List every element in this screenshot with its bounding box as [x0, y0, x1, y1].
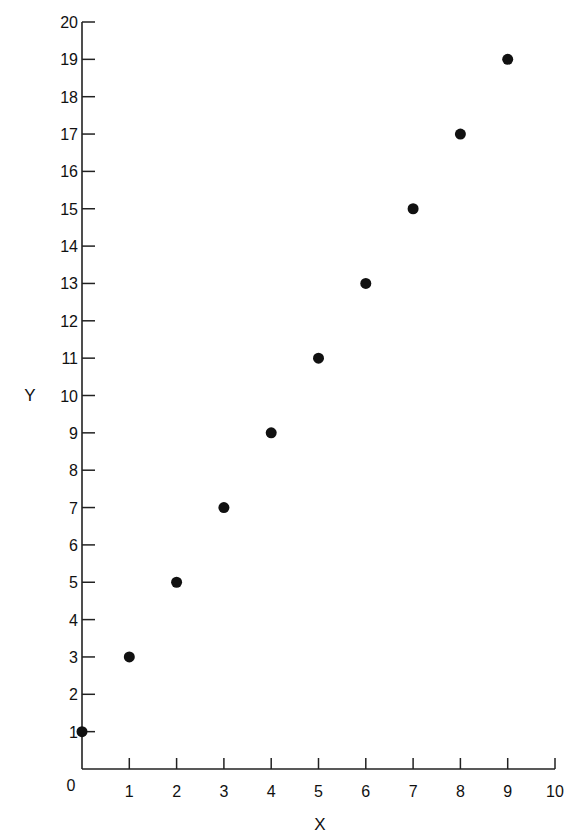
x-tick-label: 4	[267, 783, 276, 800]
y-tick-label: 14	[60, 238, 78, 255]
origin-label: 0	[67, 777, 76, 794]
y-tick-label: 10	[60, 388, 78, 405]
y-tick-label: 12	[60, 313, 78, 330]
data-point	[218, 502, 229, 513]
y-tick-label: 15	[60, 201, 78, 218]
x-tick-label: 6	[361, 783, 370, 800]
y-tick-label: 18	[60, 89, 78, 106]
axes	[82, 22, 555, 769]
x-tick-label: 1	[125, 783, 134, 800]
data-point	[124, 651, 135, 662]
y-tick-label: 13	[60, 275, 78, 292]
data-point	[360, 278, 371, 289]
y-tick-label: 3	[69, 649, 78, 666]
y-tick-label: 6	[69, 537, 78, 554]
y-tick-label: 2	[69, 686, 78, 703]
y-tick-label: 8	[69, 462, 78, 479]
data-point	[313, 353, 324, 364]
x-tick-label: 10	[546, 783, 564, 800]
x-tick-label: 5	[314, 783, 323, 800]
x-tick-label: 9	[503, 783, 512, 800]
data-point	[408, 203, 419, 214]
y-tick-label: 7	[69, 500, 78, 517]
y-tick-label: 11	[61, 350, 78, 367]
x-tick-label: 7	[409, 783, 418, 800]
data-point	[171, 577, 182, 588]
data-point	[77, 726, 88, 737]
x-axis-ticks: 12345678910	[125, 758, 564, 800]
y-tick-label: 5	[69, 574, 78, 591]
data-points	[77, 54, 514, 737]
y-tick-label: 20	[60, 14, 78, 31]
y-tick-label: 4	[69, 612, 78, 629]
y-tick-label: 17	[60, 126, 78, 143]
x-tick-label: 3	[219, 783, 228, 800]
y-tick-label: 16	[60, 163, 78, 180]
data-point	[455, 129, 466, 140]
x-tick-label: 2	[172, 783, 181, 800]
scatter-chart: 1234567891011121314151617181920 12345678…	[0, 0, 580, 836]
y-axis-title: Y	[24, 386, 35, 405]
data-point	[266, 427, 277, 438]
x-tick-label: 8	[456, 783, 465, 800]
y-tick-label: 9	[69, 425, 78, 442]
x-axis-title: X	[314, 815, 325, 834]
y-tick-label: 19	[60, 51, 78, 68]
y-axis-ticks: 1234567891011121314151617181920	[60, 14, 95, 741]
data-point	[502, 54, 513, 65]
